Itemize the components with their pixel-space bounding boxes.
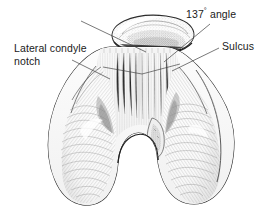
label-sulcus: Sulcus [222, 40, 254, 53]
label-lateral-condyle-notch: Lateral condylenotch [14, 42, 87, 67]
lateral-line-1: Lateral condyle [14, 42, 87, 54]
angle-value: 137 [186, 8, 204, 20]
anatomical-figure: 137° angle Sulcus Lateral condylenotch [0, 0, 273, 214]
femur-illustration [0, 0, 273, 214]
shaft-cut-edge [100, 48, 176, 53]
lateral-line-2: notch [14, 55, 40, 67]
label-angle: 137° angle [186, 7, 236, 20]
angle-word: angle [207, 8, 236, 20]
